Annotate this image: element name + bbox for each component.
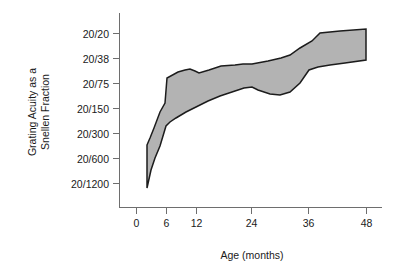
- x-tick-label: 0: [134, 217, 140, 229]
- chart-figure: 20/20 20/38 20/75 20/150 20/300 20/600 2…: [0, 0, 404, 276]
- y-tick-label: 20/150: [77, 103, 109, 115]
- y-tick-label: 20/75: [83, 78, 109, 90]
- x-tick-label: 24: [246, 217, 258, 229]
- x-axis-title: Age (months): [220, 249, 283, 261]
- y-tick-label: 20/600: [77, 153, 109, 165]
- x-tick-label: 12: [191, 217, 203, 229]
- y-axis-title-line2: Snellen Fraction: [39, 74, 51, 150]
- x-tick-label: 6: [164, 217, 170, 229]
- y-tick-label: 20/20: [83, 28, 109, 40]
- x-tick-label: 48: [361, 217, 373, 229]
- x-tick-label: 36: [303, 217, 315, 229]
- y-tick-label: 20/1200: [71, 178, 109, 190]
- y-tick-label: 20/38: [83, 53, 109, 65]
- acuity-area-chart: 20/20 20/38 20/75 20/150 20/300 20/600 2…: [0, 0, 404, 276]
- y-axis-title-line1: Grating Acuity as a: [26, 68, 38, 156]
- acuity-range-band: [147, 29, 366, 188]
- y-tick-label: 20/300: [77, 128, 109, 140]
